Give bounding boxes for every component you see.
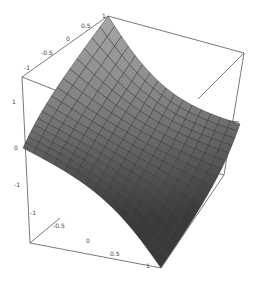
top-axis-tick: -0.5	[41, 49, 53, 56]
front-axis-tick: 0.5	[110, 250, 120, 257]
front-axis-tick: -0.5	[53, 222, 65, 229]
front-axis-tick: 1	[146, 262, 150, 269]
top-axis-tick: -1	[24, 64, 30, 71]
top-axis-tick: 0.5	[81, 22, 91, 29]
surface-mesh	[23, 16, 240, 268]
z-axis-tick: 0	[14, 144, 18, 151]
front-axis-tick: -1	[30, 209, 36, 216]
z-axis-tick: -1	[14, 181, 20, 188]
top-axis-tick: 0	[66, 35, 70, 42]
front-axis-tick: 0	[86, 237, 90, 244]
top-axis-tick: 1	[102, 12, 106, 19]
surface-plot: -1 -0.5 0 0.5 1 1 0 -1 -1 -0.5 0 0.5 1	[0, 0, 255, 283]
z-axis-tick: 1	[12, 98, 16, 105]
